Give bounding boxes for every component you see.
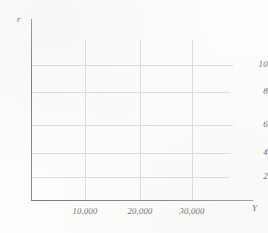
y-axis-title: r: [17, 14, 21, 24]
x-tick-label-10000: 10,000: [63, 206, 107, 216]
y-tick-label-4: 4: [242, 147, 268, 157]
x-axis-title: Y: [252, 203, 257, 213]
x-axis-line: [31, 200, 253, 201]
x-tick-label-20000: 20,000: [118, 206, 162, 216]
plot-area: [31, 19, 233, 200]
chart-canvas: 10 8 6 4 2 10,000 20,000 30,000 r Y: [0, 0, 268, 233]
y-tick-label-8: 8: [242, 86, 268, 96]
y-tick-label-2: 2: [242, 171, 268, 181]
y-tick-label-10: 10: [242, 59, 268, 69]
y-tick-label-6: 6: [242, 119, 268, 129]
x-tick-label-30000: 30,000: [170, 206, 214, 216]
